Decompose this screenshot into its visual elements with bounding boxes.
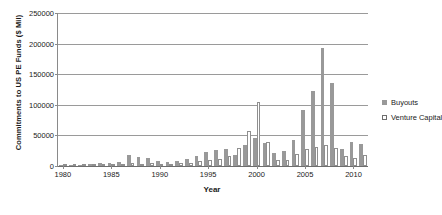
legend-swatch-icon: [382, 100, 387, 105]
x-tick-label: 1995: [200, 170, 217, 179]
bar-venture-capital-1999: [247, 131, 251, 166]
x-tick-mark: [63, 166, 64, 169]
x-tick-label: 1980: [55, 170, 72, 179]
bar-venture-capital-1987: [131, 163, 135, 166]
bar-venture-capital-2010: [353, 158, 357, 166]
bar-venture-capital-1993: [189, 163, 193, 166]
bar-venture-capital-2000: [257, 102, 261, 166]
bar-venture-capital-2009: [344, 156, 348, 166]
bar-venture-capital-2001: [266, 142, 270, 166]
bar-venture-capital-2006: [315, 147, 319, 166]
y-tick-mark: [55, 166, 58, 167]
y-tick-label: 50000: [33, 131, 54, 140]
legend-item-venture-capital: Venture Capital: [382, 113, 442, 122]
legend-swatch-icon: [382, 115, 387, 120]
x-tick-label: 1990: [151, 170, 168, 179]
bar-series-container: [58, 13, 368, 166]
bar-venture-capital-2004: [295, 154, 299, 166]
y-tick-label: 0: [50, 162, 54, 171]
x-axis-title: Year: [57, 185, 367, 194]
bar-venture-capital-1981: [73, 164, 77, 166]
legend-item-buyouts: Buyouts: [382, 98, 442, 107]
x-tick-mark: [208, 166, 209, 169]
y-axis-title: Commitments to US PE Funds ($ Mil): [14, 3, 23, 163]
x-tick-mark: [305, 166, 306, 169]
y-tick-label: 150000: [29, 70, 54, 79]
legend-label: Venture Capital: [391, 113, 442, 122]
x-tick-label: 2000: [248, 170, 265, 179]
bar-venture-capital-2008: [334, 148, 338, 166]
x-tick-mark: [160, 166, 161, 169]
bar-venture-capital-2003: [286, 160, 290, 166]
bar-venture-capital-1992: [179, 163, 183, 166]
x-tick-label: 1985: [103, 170, 120, 179]
bar-venture-capital-2005: [305, 149, 309, 166]
x-tick-mark: [353, 166, 354, 169]
y-tick-label: 200000: [29, 39, 54, 48]
bar-venture-capital-1984: [102, 164, 106, 166]
bar-venture-capital-1996: [218, 159, 222, 166]
chart-legend: BuyoutsVenture Capital: [382, 98, 442, 128]
bar-venture-capital-1986: [121, 164, 125, 166]
bar-venture-capital-2011: [363, 155, 367, 166]
bar-venture-capital-2002: [276, 160, 280, 166]
x-tick-mark: [257, 166, 258, 169]
y-tick-label: 100000: [29, 100, 54, 109]
bar-venture-capital-1989: [150, 163, 154, 166]
x-tick-mark: [111, 166, 112, 169]
bar-venture-capital-1998: [237, 148, 241, 166]
bar-venture-capital-1994: [198, 161, 202, 166]
bar-venture-capital-1983: [92, 164, 96, 166]
plot-area: 050000100000150000200000250000 198019851…: [57, 13, 367, 166]
bar-venture-capital-1988: [140, 164, 144, 166]
bar-venture-capital-1991: [169, 164, 173, 166]
bar-venture-capital-1982: [82, 164, 86, 166]
bar-venture-capital-2007: [324, 145, 328, 166]
x-axis-line: [58, 166, 368, 167]
bar-venture-capital-1997: [228, 156, 232, 166]
x-tick-label: 2005: [297, 170, 314, 179]
x-tick-label: 2010: [345, 170, 362, 179]
legend-label: Buyouts: [391, 98, 418, 107]
y-tick-label: 250000: [29, 9, 54, 18]
